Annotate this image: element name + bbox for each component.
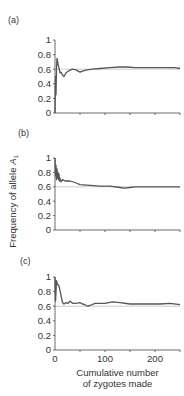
y-tick-label: 0.8 xyxy=(38,49,51,60)
y-tick-label: 0.6 xyxy=(38,301,51,312)
y-tick-label: 1 xyxy=(46,152,51,163)
x-tick-label: 100 xyxy=(97,353,113,364)
y-tick-label: 0 xyxy=(46,344,51,355)
y-tick-label: 0.8 xyxy=(38,167,51,178)
y-tick-label: 0.4 xyxy=(38,315,51,326)
frequency-line xyxy=(55,277,180,306)
y-tick-label: 0 xyxy=(46,224,51,235)
allele-frequency-charts: 00.20.40.60.8100.20.40.60.8100.20.40.60.… xyxy=(0,0,184,396)
frequency-line xyxy=(55,158,180,188)
x-tick-label: 0 xyxy=(52,353,57,364)
y-tick-label: 1 xyxy=(46,34,51,45)
y-tick-label: 0.2 xyxy=(38,93,51,104)
frequency-line xyxy=(55,58,180,113)
y-tick-label: 0.6 xyxy=(38,181,51,192)
x-tick-label: 200 xyxy=(147,353,163,364)
y-tick-label: 0.4 xyxy=(38,78,51,89)
y-tick-label: 0.6 xyxy=(38,64,51,75)
y-tick-label: 0.4 xyxy=(38,196,51,207)
y-tick-label: 0.2 xyxy=(38,210,51,221)
chart-panel-a: 00.20.40.60.81 xyxy=(38,34,180,118)
chart-panel-b: 00.20.40.60.81 xyxy=(38,152,180,235)
y-tick-label: 1 xyxy=(46,271,51,282)
chart-panel-c: 00.20.40.60.810100200 xyxy=(38,271,180,364)
y-tick-label: 0.2 xyxy=(38,330,51,341)
y-tick-label: 0 xyxy=(46,107,51,118)
y-tick-label: 0.8 xyxy=(38,286,51,297)
